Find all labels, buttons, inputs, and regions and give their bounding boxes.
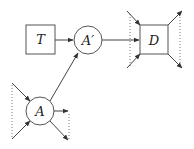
node-a-prime: A′ — [74, 26, 102, 54]
node-t-label: T — [36, 32, 46, 47]
node-a: A — [26, 97, 54, 125]
diagram-canvas: T A′ D A — [0, 0, 194, 149]
node-a-label: A — [34, 104, 44, 119]
d-in-arrow-top — [127, 11, 140, 25]
node-d: D — [140, 25, 168, 54]
edge-a-to-aprime — [50, 53, 78, 101]
node-t: T — [26, 25, 55, 54]
node-d-label: D — [148, 33, 160, 48]
node-a-prime-label: A′ — [81, 33, 94, 48]
a-out-arrow-bottom — [50, 121, 68, 140]
a-in-arrow-bottom — [12, 121, 30, 139]
d-in-arrow-bottom — [127, 54, 140, 68]
a-in-arrow-top — [12, 83, 30, 101]
